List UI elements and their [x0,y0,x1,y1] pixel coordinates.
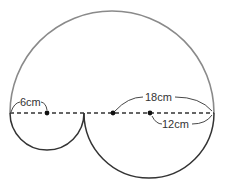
small-radius-label: 6cm [20,96,41,108]
large-radius-leader-2 [175,97,212,111]
small-radius-leader [11,102,20,112]
small-radius-leader-2 [41,102,47,110]
medium-radius-leader-2 [192,115,212,124]
geometry-diagram: 6cm 18cm 12cm [0,0,226,188]
small-center-dot [45,111,50,116]
medium-center-dot [148,111,153,116]
medium-radius-label: 12cm [162,118,189,130]
large-radius-leader [115,97,143,111]
medium-semicircle-arc [84,113,214,178]
large-center-dot [111,111,116,116]
large-radius-label: 18cm [145,91,172,103]
medium-radius-leader [152,116,162,124]
small-semicircle-arc [10,113,84,150]
